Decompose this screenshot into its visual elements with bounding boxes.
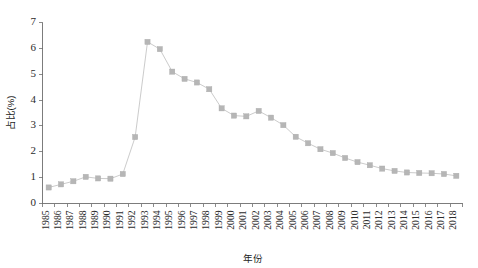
- y-tick-group: [39, 23, 43, 204]
- x-tick-label: 2000: [225, 210, 236, 229]
- data-point-marker: [454, 173, 459, 178]
- x-tick-label: 2017: [435, 210, 446, 229]
- x-tick-label: 2005: [287, 210, 298, 229]
- data-point-marker: [170, 69, 175, 74]
- data-point-marker: [268, 115, 273, 120]
- x-tick-label: 2011: [361, 210, 372, 229]
- x-tick-label: 2015: [410, 210, 421, 229]
- x-tick-label: 2008: [324, 210, 335, 229]
- line-chart: 01234567 1985198619871988198919901991199…: [0, 0, 478, 268]
- y-tick-label: 5: [31, 67, 37, 79]
- x-axis: 1985198619871988198919901991199219931994…: [40, 204, 463, 230]
- x-tick-label: 1988: [77, 210, 88, 229]
- x-tick-label: 1995: [163, 210, 174, 229]
- x-tick-label: 2003: [262, 210, 273, 229]
- data-point-marker: [429, 171, 434, 176]
- data-point-marker: [392, 168, 397, 173]
- y-axis: 01234567: [31, 15, 43, 208]
- data-point-marker: [318, 147, 323, 152]
- data-series: [46, 39, 459, 190]
- x-tick-label: 2018: [447, 210, 458, 229]
- data-point-marker: [194, 80, 199, 85]
- data-point-marker: [343, 155, 348, 160]
- x-tick-label: 2006: [299, 210, 310, 229]
- data-point-marker: [83, 174, 88, 179]
- y-tick-label: 1: [31, 170, 37, 182]
- data-point-marker: [108, 176, 113, 181]
- data-point-marker: [219, 106, 224, 111]
- data-point-marker: [46, 185, 51, 190]
- data-point-marker: [330, 150, 335, 155]
- y-tick-label-group: 01234567: [31, 15, 37, 208]
- x-tick-label: 1986: [52, 210, 63, 229]
- data-point-marker: [95, 176, 100, 181]
- x-tick-label: 1998: [200, 210, 211, 229]
- data-point-marker: [71, 179, 76, 184]
- data-point-marker: [293, 134, 298, 139]
- x-tick-label: 2016: [423, 210, 434, 229]
- y-tick-label: 0: [31, 196, 37, 208]
- x-tick-label: 2014: [398, 210, 409, 229]
- series-marker-group: [46, 39, 459, 190]
- x-tick-label: 2002: [250, 210, 261, 229]
- x-tick-label: 1996: [176, 210, 187, 229]
- data-point-marker: [145, 39, 150, 44]
- x-tick-label: 1989: [89, 210, 100, 229]
- x-tick-label: 2001: [237, 210, 248, 229]
- x-tick-label: 1991: [114, 210, 125, 229]
- data-point-marker: [305, 141, 310, 146]
- data-point-marker: [404, 170, 409, 175]
- x-tick-label: 2007: [311, 210, 322, 229]
- x-tick-label: 2009: [336, 210, 347, 229]
- y-tick-label: 7: [31, 15, 37, 27]
- data-point-marker: [367, 163, 372, 168]
- data-point-marker: [256, 108, 261, 113]
- y-axis-title: 占比(%): [5, 96, 16, 131]
- y-tick-label: 6: [31, 41, 37, 53]
- series-line: [49, 42, 457, 188]
- data-point-marker: [244, 114, 249, 119]
- x-tick-label: 2004: [274, 210, 285, 229]
- data-point-marker: [441, 171, 446, 176]
- x-tick-group: [43, 204, 463, 208]
- chart-canvas: 01234567 1985198619871988198919901991199…: [0, 0, 478, 268]
- data-point-marker: [182, 76, 187, 81]
- x-tick-label: 2013: [386, 210, 397, 229]
- data-point-marker: [133, 134, 138, 139]
- x-axis-title: 年份: [243, 253, 263, 264]
- data-point-marker: [157, 47, 162, 52]
- x-tick-label: 2010: [349, 210, 360, 229]
- x-tick-label: 1997: [188, 210, 199, 229]
- x-tick-label: 1990: [101, 210, 112, 229]
- data-point-marker: [281, 123, 286, 128]
- y-tick-label: 3: [31, 118, 37, 130]
- data-point-marker: [380, 166, 385, 171]
- x-tick-label: 1993: [139, 210, 150, 229]
- x-tick-label-group: 1985198619871988198919901991199219931994…: [40, 210, 459, 229]
- x-tick-label: 1992: [126, 210, 137, 229]
- data-point-marker: [355, 160, 360, 165]
- x-tick-label: 1999: [213, 210, 224, 229]
- data-point-marker: [231, 113, 236, 118]
- x-tick-label: 2012: [373, 210, 384, 229]
- data-point-marker: [58, 182, 63, 187]
- data-point-marker: [417, 170, 422, 175]
- y-tick-label: 4: [31, 93, 37, 105]
- x-tick-label: 1985: [40, 210, 51, 229]
- data-point-marker: [207, 87, 212, 92]
- data-point-marker: [120, 171, 125, 176]
- x-tick-label: 1994: [151, 210, 162, 229]
- y-tick-label: 2: [31, 144, 37, 156]
- x-tick-label: 1987: [64, 210, 75, 229]
